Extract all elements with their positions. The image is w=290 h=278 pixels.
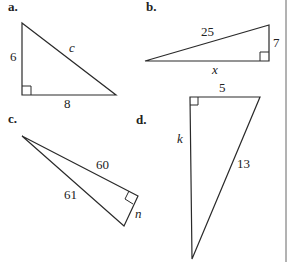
right-triangles-figure: a. 6 c 8 b. 25 7 x c. 60 61 n d. 5 k 13 — [0, 0, 290, 278]
triangle-a: a. 6 c 8 — [8, 0, 116, 111]
label-a: a. — [8, 0, 18, 14]
hyp-c: 61 — [64, 187, 77, 202]
triangle-d: d. 5 k 13 — [136, 80, 260, 259]
label-d: d. — [136, 112, 146, 127]
triangle-c: c. 60 61 n — [8, 111, 142, 226]
label-c: c. — [8, 111, 17, 126]
hyp-a: c — [69, 40, 75, 55]
hyp-d: 13 — [237, 156, 250, 171]
side-b-bottom: x — [211, 62, 218, 77]
triangle-b: b. 25 7 x — [145, 0, 280, 77]
side-b-right: 7 — [273, 35, 280, 50]
hyp-b: 25 — [201, 24, 214, 39]
side-a-left: 6 — [10, 49, 17, 64]
leg-c-short: n — [135, 206, 142, 221]
side-d-left: k — [177, 131, 183, 146]
label-b: b. — [146, 0, 156, 14]
leg-c-long: 60 — [96, 157, 109, 172]
side-d-top: 5 — [219, 80, 226, 95]
side-a-bottom: 8 — [64, 96, 71, 111]
